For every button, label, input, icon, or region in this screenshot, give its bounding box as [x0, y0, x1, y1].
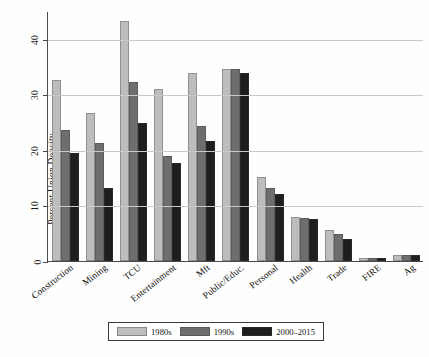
bar-group — [321, 12, 355, 261]
x-axis-label: Mft — [195, 264, 212, 281]
union-density-bar-chart: Percent Union Density 010203040 Construc… — [0, 0, 429, 357]
bar — [129, 82, 138, 261]
bar — [206, 141, 215, 261]
bar — [231, 69, 240, 261]
bar-group — [253, 12, 287, 261]
bar — [377, 258, 386, 261]
gridline — [48, 95, 423, 96]
legend-item[interactable]: 1990s — [180, 327, 235, 337]
y-axis-tick — [43, 95, 48, 96]
plot-area: 010203040 — [47, 12, 423, 262]
legend-label: 1990s — [214, 327, 235, 337]
bar — [393, 255, 402, 261]
x-axis-label: Ag — [403, 264, 418, 279]
x-axis-label: Trade — [326, 264, 350, 285]
bar — [368, 258, 377, 261]
bar — [52, 80, 61, 261]
legend-item[interactable]: 1980s — [117, 327, 172, 337]
bar — [86, 113, 95, 261]
bar — [188, 73, 197, 261]
legend-item[interactable]: 2000–2015 — [242, 327, 315, 337]
y-axis-tick — [43, 206, 48, 207]
bar — [275, 194, 284, 261]
bar — [222, 69, 231, 261]
gridline — [48, 151, 423, 152]
x-axis-label: Personal — [249, 264, 281, 292]
y-axis-tick — [43, 262, 48, 263]
gridline — [48, 206, 423, 207]
bar — [343, 239, 352, 261]
bar-group — [82, 12, 116, 261]
x-axis-label: Construction — [31, 264, 76, 302]
bar-group — [116, 12, 150, 261]
x-axis-label: Mining — [82, 264, 110, 289]
bar-group — [219, 12, 253, 261]
legend-label: 1980s — [151, 327, 172, 337]
bars-layer — [48, 12, 423, 261]
bar — [334, 234, 343, 261]
bar — [104, 188, 113, 261]
y-axis-tick — [43, 151, 48, 152]
bar — [309, 219, 318, 261]
legend-swatch — [117, 327, 147, 336]
bar-group — [185, 12, 219, 261]
y-axis-tick-label: 40 — [30, 35, 40, 45]
bar — [411, 255, 420, 261]
bar — [266, 188, 275, 261]
bar-group — [390, 12, 424, 261]
bar — [291, 217, 300, 261]
x-axis-label: TCU — [123, 264, 144, 284]
legend-swatch — [242, 327, 272, 336]
bar-group — [356, 12, 390, 261]
bar — [197, 126, 206, 261]
legend-swatch — [180, 327, 210, 336]
bar-group — [287, 12, 321, 261]
chart-legend: 1980s1990s2000–2015 — [108, 322, 324, 341]
bar — [402, 255, 411, 261]
y-axis-tick-label: 30 — [30, 90, 40, 100]
x-axis-label: Health — [289, 264, 315, 288]
y-axis-tick-label: 20 — [30, 146, 40, 156]
bar — [240, 73, 249, 261]
x-axis-label: FIRE — [361, 264, 383, 285]
bar — [154, 89, 163, 261]
bar — [120, 21, 129, 261]
bar — [300, 218, 309, 261]
bar — [172, 163, 181, 261]
bar — [138, 123, 147, 261]
bar — [325, 230, 334, 261]
gridline — [48, 40, 423, 41]
bar — [163, 156, 172, 261]
y-axis-tick-label: 0 — [32, 259, 42, 264]
bar-group — [151, 12, 185, 261]
y-axis-tick-label: 10 — [30, 201, 40, 211]
bar — [359, 258, 368, 261]
legend-label: 2000–2015 — [276, 327, 315, 337]
bar-group — [48, 12, 82, 261]
bar — [257, 177, 266, 261]
bar — [95, 143, 104, 261]
y-axis-tick — [43, 40, 48, 41]
x-axis-labels: ConstructionMiningTCUEntertainmentMftPub… — [47, 264, 423, 324]
